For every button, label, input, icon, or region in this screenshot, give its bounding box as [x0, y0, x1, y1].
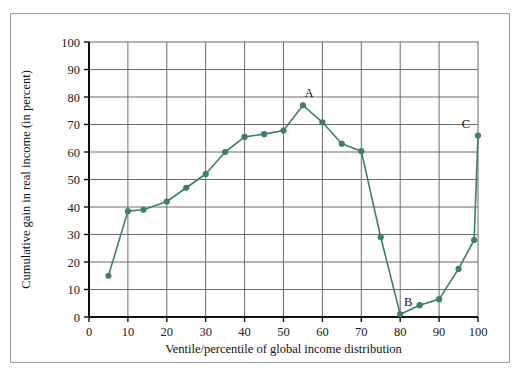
x-tick-label: 80: [394, 325, 407, 339]
y-tick-label: 40: [68, 201, 81, 215]
y-tick-label: 10: [68, 283, 81, 297]
y-tick-label: 100: [61, 36, 80, 50]
y-tick-label: 30: [68, 228, 81, 242]
data-point-marker: [105, 273, 111, 279]
x-tick-label: 40: [238, 325, 251, 339]
data-point-marker: [261, 131, 267, 137]
x-tick-label: 70: [355, 325, 368, 339]
data-point-marker: [183, 185, 189, 191]
y-tick-label: 70: [68, 118, 81, 132]
data-point-marker: [222, 149, 228, 155]
data-point-marker: [471, 237, 477, 243]
data-point-marker: [140, 207, 146, 213]
elephant-curve-chart: 0102030405060708090100 01020304050607080…: [0, 0, 523, 378]
annotation-label-a: A: [304, 86, 313, 100]
data-point-marker: [417, 302, 423, 308]
data-point-marker: [164, 198, 170, 204]
y-axis-title: Cumulative gain in real income (in perce…: [19, 70, 33, 289]
annotation-label-b: B: [404, 295, 412, 309]
x-tick-label: 10: [122, 325, 135, 339]
annotation-label-c: C: [462, 117, 470, 131]
x-axis-ticks: 0102030405060708090100: [86, 317, 488, 339]
y-axis-ticks: 0102030405060708090100: [61, 36, 89, 325]
x-axis-title: Ventile/percentile of global income dist…: [165, 342, 402, 356]
y-tick-label: 20: [68, 256, 81, 270]
data-point-marker: [455, 266, 461, 272]
data-point-marker: [319, 119, 325, 125]
x-tick-label: 0: [86, 325, 92, 339]
data-point-marker: [242, 134, 248, 140]
data-point-marker: [436, 296, 442, 302]
data-point-marker: [358, 148, 364, 154]
x-tick-label: 20: [161, 325, 174, 339]
x-tick-label: 90: [433, 325, 446, 339]
data-point-marker: [300, 102, 306, 108]
x-tick-label: 60: [316, 325, 329, 339]
y-tick-label: 90: [68, 63, 81, 77]
y-tick-label: 0: [74, 311, 80, 325]
chart-svg: 0102030405060708090100 01020304050607080…: [0, 0, 523, 378]
data-point-marker: [125, 208, 131, 214]
data-point-marker: [378, 234, 384, 240]
data-point-marker: [397, 311, 403, 317]
x-tick-label: 30: [199, 325, 212, 339]
y-tick-label: 50: [68, 173, 81, 187]
x-tick-label: 50: [277, 325, 290, 339]
y-tick-label: 80: [68, 91, 81, 105]
data-point-marker: [280, 127, 286, 133]
data-point-marker: [203, 171, 209, 177]
x-tick-label: 100: [469, 325, 488, 339]
data-point-marker: [339, 141, 345, 147]
y-tick-label: 60: [68, 146, 81, 160]
data-point-marker: [475, 132, 481, 138]
